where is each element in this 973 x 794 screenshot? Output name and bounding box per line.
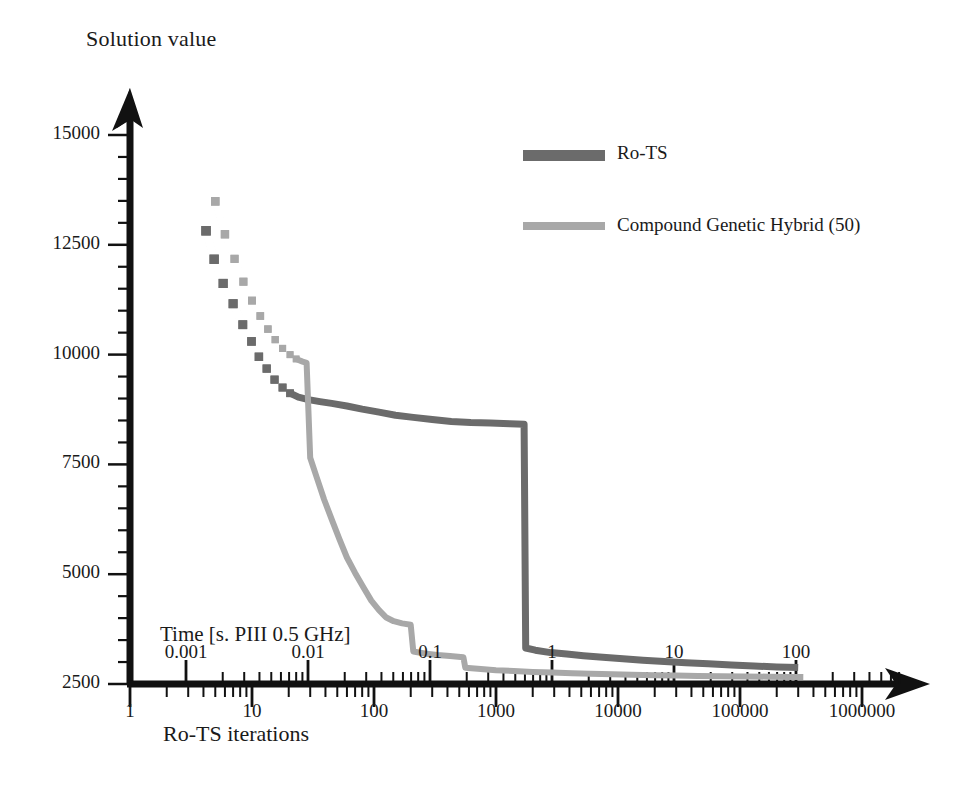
x-tick-label: 10000	[594, 700, 642, 722]
y-tick-label: 5000	[20, 561, 100, 583]
y-tick-label: 7500	[20, 451, 100, 473]
y-tick-label: 10000	[20, 342, 100, 364]
y-axis	[112, 88, 143, 684]
legend-entry-ro-ts: Ro-TS	[617, 142, 668, 164]
x-tick-label: 1000000	[829, 700, 896, 722]
data-series-layer	[201, 197, 803, 677]
plot-area	[0, 0, 973, 794]
time-tick-label: 100	[782, 641, 811, 663]
time-tick-label: 10	[665, 641, 684, 663]
x-tick-label: 100000	[712, 700, 769, 722]
x-tick-label: 100	[360, 700, 389, 722]
legend-entry-compound-genetic-hybrid: Compound Genetic Hybrid (50)	[617, 214, 860, 236]
x-tick-label: 10	[243, 700, 262, 722]
series-compound-genetic-hybrid	[211, 197, 803, 677]
time-tick-label: 0.01	[291, 641, 324, 663]
x-tick-label: 1000	[477, 700, 515, 722]
legend-swatches	[523, 150, 605, 230]
y-tick-label: 12500	[20, 232, 100, 254]
time-tick-label: 0.001	[165, 641, 208, 663]
time-tick-label: 1	[547, 641, 557, 663]
y-tick-label: 2500	[20, 671, 100, 693]
chart-figure: Solution value Ro-TS iterations Time [s.…	[0, 0, 973, 794]
x-tick-label: 1	[125, 700, 135, 722]
series-ro-ts	[201, 226, 798, 668]
time-tick-label: 0.1	[418, 641, 442, 663]
y-tick-label: 15000	[20, 122, 100, 144]
